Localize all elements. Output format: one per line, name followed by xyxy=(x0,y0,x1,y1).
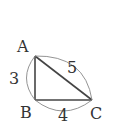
triangle-diagram: A B C 3 4 5 xyxy=(0,0,113,131)
vertex-label-a: A xyxy=(16,37,29,56)
side-length-bc: 4 xyxy=(58,106,68,125)
side-ac xyxy=(35,56,92,100)
arc-ab xyxy=(27,56,36,100)
vertex-label-c: C xyxy=(90,104,102,123)
vertex-label-b: B xyxy=(20,103,32,122)
side-length-ab: 3 xyxy=(9,69,19,88)
side-length-ac: 5 xyxy=(67,58,77,77)
